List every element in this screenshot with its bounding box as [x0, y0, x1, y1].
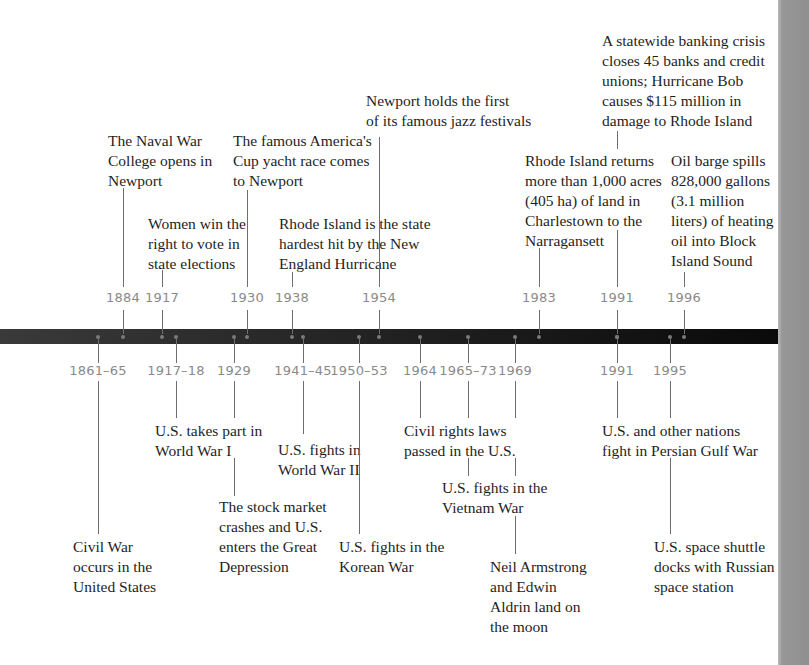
connector-line — [420, 381, 421, 418]
connector-line — [247, 310, 248, 334]
year-label-1941-45: 1941–45 — [274, 363, 332, 378]
timeline-dot — [121, 335, 125, 339]
event-label-women-vote: Women win the right to vote in state ele… — [148, 214, 246, 274]
timeline-dot — [682, 335, 686, 339]
event-label-civil-rights: Civil rights laws passed in the U.S. — [404, 421, 516, 461]
event-label-oil-spill: Oil barge spills 828,000 gallons (3.1 mi… — [671, 151, 773, 271]
connector-line — [515, 339, 516, 363]
year-label-1964: 1964 — [403, 363, 437, 378]
year-label-1991-top: 1991 — [600, 290, 634, 305]
connector-line — [420, 339, 421, 363]
event-label-korean-war: U.S. fights in the Korean War — [339, 537, 445, 577]
connector-line — [176, 381, 177, 418]
year-label-1930: 1930 — [230, 290, 264, 305]
event-label-civil-war: Civil War occurs in the United States — [73, 537, 156, 597]
year-label-1950-53: 1950–53 — [330, 363, 388, 378]
event-label-vietnam-war: U.S. fights in the Vietnam War — [442, 478, 548, 518]
timeline-dot — [537, 335, 541, 339]
year-label-1991-bottom: 1991 — [600, 363, 634, 378]
year-label-1861-65: 1861–65 — [69, 363, 127, 378]
year-label-1995: 1995 — [653, 363, 687, 378]
event-label-narragansett-land: Rhode Island returns more than 1,000 acr… — [525, 151, 662, 251]
year-label-1954: 1954 — [362, 290, 396, 305]
event-label-banking-crisis: A statewide banking crisis closes 45 ban… — [602, 31, 765, 131]
event-label-space-shuttle: U.S. space shuttle docks with Russian sp… — [654, 537, 775, 597]
connector-line — [670, 458, 671, 534]
connector-line — [684, 272, 685, 287]
event-label-world-war-2: U.S. fights in World War II — [278, 440, 361, 480]
connector-line — [468, 381, 469, 418]
connector-line — [292, 310, 293, 334]
connector-line — [123, 188, 124, 287]
connector-line — [247, 190, 248, 287]
year-label-1996: 1996 — [667, 290, 701, 305]
timeline-dot — [290, 335, 294, 339]
timeline-bar — [0, 329, 778, 344]
connector-line — [539, 310, 540, 334]
connector-line — [468, 458, 469, 476]
connector-line — [670, 381, 671, 418]
event-label-jazz-festival: Newport holds the first of its famous ja… — [366, 91, 531, 131]
connector-line — [303, 381, 304, 434]
page-edge-strip — [778, 0, 809, 665]
event-label-new-england-hurricane: Rhode Island is the state hardest hit by… — [279, 214, 431, 274]
event-label-americas-cup: The famous America's Cup yacht race come… — [233, 131, 372, 191]
connector-line — [684, 310, 685, 334]
event-label-world-war-1: U.S. takes part in World War I — [155, 421, 262, 461]
timeline-dot — [245, 335, 249, 339]
event-label-moon-landing: Neil Armstrong and Edwin Aldrin land on … — [490, 557, 587, 637]
connector-line — [359, 339, 360, 363]
connector-line — [98, 339, 99, 363]
event-label-persian-gulf-war: U.S. and other nations fight in Persian … — [602, 421, 758, 461]
connector-line — [617, 310, 618, 334]
connector-line — [515, 381, 516, 418]
event-label-great-depression: The stock market crashes and U.S. enters… — [219, 497, 327, 577]
connector-line — [617, 131, 618, 149]
connector-line — [303, 339, 304, 363]
year-label-1917-18: 1917–18 — [147, 363, 205, 378]
connector-line — [468, 339, 469, 363]
connector-line — [617, 339, 618, 363]
year-label-1969: 1969 — [498, 363, 532, 378]
connector-line — [670, 339, 671, 363]
event-label-naval-war-college: The Naval War College opens in Newport — [108, 131, 212, 191]
year-label-1938: 1938 — [275, 290, 309, 305]
timeline-dot — [160, 335, 164, 339]
year-label-1917: 1917 — [145, 290, 179, 305]
year-label-1884: 1884 — [106, 290, 140, 305]
timeline-dot — [377, 335, 381, 339]
connector-line — [292, 272, 293, 287]
connector-line — [515, 516, 516, 554]
connector-line — [379, 137, 380, 287]
year-label-1965-73: 1965–73 — [439, 363, 497, 378]
connector-line — [379, 310, 380, 334]
connector-line — [234, 339, 235, 363]
connector-line — [234, 381, 235, 418]
connector-line — [617, 230, 618, 287]
connector-line — [539, 248, 540, 287]
connector-line — [98, 381, 99, 534]
connector-line — [359, 381, 360, 534]
connector-line — [617, 381, 618, 418]
connector-line — [515, 458, 516, 476]
connector-line — [123, 310, 124, 334]
year-label-1929: 1929 — [217, 363, 251, 378]
connector-line — [162, 310, 163, 334]
year-label-1983: 1983 — [522, 290, 556, 305]
connector-line — [234, 458, 235, 496]
connector-line — [176, 339, 177, 363]
